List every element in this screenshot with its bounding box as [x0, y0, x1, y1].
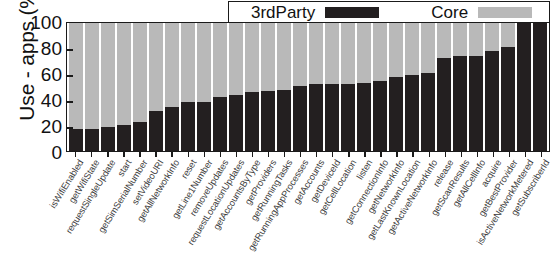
y-tick-60: 60: [22, 65, 62, 84]
bar-segment-core: [133, 23, 147, 122]
bar-29: [533, 23, 547, 151]
bar-segment-core: [181, 23, 195, 102]
bar-segment-core: [309, 23, 323, 84]
bar-segment-3rdparty: [309, 84, 323, 151]
bar-segment-core: [149, 23, 163, 111]
x-tickmark-16: [332, 152, 333, 157]
bar-segment-core: [405, 23, 419, 75]
bar-segment-3rdparty: [421, 73, 435, 151]
x-tickmark-17: [348, 152, 349, 157]
bar-24: [453, 23, 467, 151]
bar-6: [165, 23, 179, 151]
x-tickmark-28: [525, 152, 526, 157]
bar-21: [405, 23, 419, 151]
x-tickmark-8: [204, 152, 205, 157]
x-tickmark-9: [220, 152, 221, 157]
bar-segment-3rdparty: [485, 51, 499, 151]
x-tickmark-0: [75, 152, 76, 157]
bar-segment-core: [485, 23, 499, 51]
bar-segment-3rdparty: [293, 86, 307, 151]
x-tickmark-26: [493, 152, 494, 157]
x-tickmark-21: [412, 152, 413, 157]
x-tickmark-24: [461, 152, 462, 157]
x-axis-tick-labels: isWifiEnabledgetWifiStaterequestSingleUp…: [66, 158, 550, 262]
bar-10: [229, 23, 243, 151]
bar-27: [501, 23, 515, 151]
x-tickmark-12: [268, 152, 269, 157]
bar-segment-core: [245, 23, 259, 92]
bar-segment-core: [277, 23, 291, 90]
x-tickmark-14: [300, 152, 301, 157]
legend-entry-3rdparty: 3rdParty: [251, 2, 379, 22]
bar-segment-core: [357, 23, 371, 83]
bar-segment-3rdparty: [261, 91, 275, 151]
bar-28: [517, 23, 531, 151]
x-tickmark-5: [155, 152, 156, 157]
x-tickmark-18: [364, 152, 365, 157]
chart-legend: 3rdParty Core: [228, 1, 550, 23]
bar-15: [309, 23, 323, 151]
bar-5: [149, 23, 163, 151]
bar-0: [69, 23, 83, 151]
x-axis-tick-marks: [66, 152, 550, 157]
bar-7: [181, 23, 195, 151]
bar-segment-3rdparty: [437, 58, 451, 151]
y-tick-20: 20: [22, 117, 62, 136]
bar-segment-3rdparty: [245, 92, 259, 151]
bar-2: [101, 23, 115, 151]
x-tickmark-15: [316, 152, 317, 157]
bar-18: [357, 23, 371, 151]
bar-segment-3rdparty: [101, 127, 115, 151]
bar-segment-core: [373, 23, 387, 81]
bar-8: [197, 23, 211, 151]
x-tickmark-20: [396, 152, 397, 157]
bar-segment-3rdparty: [453, 56, 467, 151]
y-tick-0: 0: [22, 143, 62, 162]
x-tickmark-11: [252, 152, 253, 157]
bar-4: [133, 23, 147, 151]
chart-figure: Use - apps (%) 020406080100 isWifiEnable…: [0, 0, 553, 262]
bar-segment-3rdparty: [149, 111, 163, 151]
bar-segment-3rdparty: [85, 129, 99, 151]
legend-label-core: Core: [431, 4, 468, 21]
x-tickmark-27: [509, 152, 510, 157]
bar-19: [373, 23, 387, 151]
x-tickmark-23: [445, 152, 446, 157]
bar-segment-3rdparty: [533, 23, 547, 151]
x-tickmark-29: [541, 152, 542, 157]
bar-23: [437, 23, 451, 151]
bar-segment-3rdparty: [277, 90, 291, 151]
bar-segment-core: [325, 23, 339, 84]
bar-20: [389, 23, 403, 151]
x-tickmark-19: [380, 152, 381, 157]
x-tickmark-6: [171, 152, 172, 157]
bar-14: [293, 23, 307, 151]
bar-segment-3rdparty: [117, 125, 131, 151]
bar-13: [277, 23, 291, 151]
bar-segment-core: [117, 23, 131, 125]
y-tick-40: 40: [22, 91, 62, 110]
plot-area: [66, 22, 550, 152]
y-axis-tick-labels: 020406080100: [22, 22, 62, 152]
bar-series-container: [67, 23, 549, 151]
bar-segment-core: [85, 23, 99, 129]
bar-segment-3rdparty: [165, 107, 179, 151]
bar-segment-3rdparty: [357, 83, 371, 151]
x-tickmark-13: [284, 152, 285, 157]
bar-17: [341, 23, 355, 151]
bar-12: [261, 23, 275, 151]
x-tickmark-22: [429, 152, 430, 157]
x-tickmark-4: [139, 152, 140, 157]
x-tickmark-7: [188, 152, 189, 157]
x-tickmark-3: [123, 152, 124, 157]
bar-segment-3rdparty: [405, 75, 419, 151]
bar-1: [85, 23, 99, 151]
x-tickmark-1: [91, 152, 92, 157]
bar-segment-3rdparty: [69, 129, 83, 151]
bar-3: [117, 23, 131, 151]
bar-segment-core: [101, 23, 115, 127]
bar-9: [213, 23, 227, 151]
bar-26: [485, 23, 499, 151]
bar-segment-core: [453, 23, 467, 56]
bar-segment-core: [421, 23, 435, 73]
